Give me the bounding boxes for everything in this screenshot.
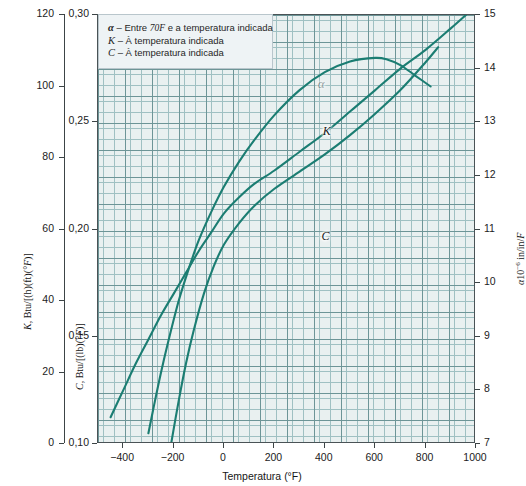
c-ticklabel-2: 0,20 bbox=[45, 222, 89, 234]
alpha-ticklabel-2: 13 bbox=[484, 114, 514, 126]
legend-dash-alpha: – bbox=[114, 22, 125, 33]
axis-title-k-tail: )] bbox=[22, 253, 33, 260]
axis-title-k-rest: , Btu/[(h)(ft)( bbox=[22, 270, 33, 323]
legend-text-k: À temperatura indicada bbox=[126, 35, 224, 46]
c-tick-1 bbox=[92, 121, 97, 122]
c-ticklabel-0: 0,30 bbox=[45, 7, 89, 19]
axis-title-x: Temperatura (°F) bbox=[0, 470, 524, 482]
axis-title-alpha: α10−6 in/in/F bbox=[514, 233, 526, 285]
legend-symbol-k: K bbox=[108, 35, 115, 46]
axis-title-alpha-base: 10 bbox=[515, 270, 526, 280]
alpha-tick-6 bbox=[475, 336, 480, 337]
curve-label-c: C bbox=[322, 229, 330, 244]
x-tick-5 bbox=[374, 443, 375, 448]
curve-label-k: K bbox=[323, 124, 331, 139]
legend-text2-alpha: e a temperatura indicada bbox=[165, 22, 273, 33]
x-tick-6 bbox=[425, 443, 426, 448]
alpha-ticklabel-4: 11 bbox=[484, 222, 514, 234]
curve-c bbox=[171, 47, 438, 443]
legend-dash-c: – bbox=[115, 47, 126, 58]
axis-title-c-tail: )] bbox=[74, 323, 85, 330]
axis-title-x-text: Temperatura (°F) bbox=[222, 470, 301, 482]
c-tick-0 bbox=[92, 14, 97, 15]
k-ticklabel-5: 20 bbox=[10, 365, 54, 377]
axis-title-alpha-exp: −6 bbox=[514, 262, 522, 269]
alpha-tick-1 bbox=[475, 68, 480, 69]
x-tick-0 bbox=[122, 443, 123, 448]
legend-box: α – Entre 70F e a temperatura indicada K… bbox=[98, 14, 273, 69]
x-ticklabel-7: 1000 bbox=[445, 451, 505, 463]
x-tick-4 bbox=[324, 443, 325, 448]
k-tick-5 bbox=[59, 372, 64, 373]
legend-symbol-c: C bbox=[108, 47, 115, 58]
k-ticklabel-1: 100 bbox=[10, 79, 54, 91]
axis-title-alpha-tail: in/in/ bbox=[515, 239, 526, 263]
alpha-tick-4 bbox=[475, 229, 480, 230]
axis-title-k-symbol: K bbox=[22, 323, 33, 330]
c-ticklabel-4: 0,10 bbox=[45, 436, 89, 448]
alpha-ticklabel-6: 9 bbox=[484, 329, 514, 341]
curve-k bbox=[148, 58, 430, 433]
alpha-tick-2 bbox=[475, 121, 480, 122]
alpha-ticklabel-5: 10 bbox=[484, 275, 514, 287]
alpha-ticklabel-1: 14 bbox=[484, 61, 514, 73]
c-tick-3 bbox=[92, 336, 97, 337]
k-ticklabel-2: 80 bbox=[10, 150, 54, 162]
alpha-tick-3 bbox=[475, 175, 480, 176]
c-tick-4 bbox=[92, 443, 97, 444]
legend-row-c: C – À temperatura indicada bbox=[108, 47, 263, 60]
x-tick-3 bbox=[273, 443, 274, 448]
legend-text-c: À temperatura indicada bbox=[126, 47, 224, 58]
alpha-ticklabel-0: 15 bbox=[484, 7, 514, 19]
alpha-ticklabel-8: 7 bbox=[484, 436, 514, 448]
x-tick-1 bbox=[173, 443, 174, 448]
legend-dash-k: – bbox=[115, 35, 126, 46]
c-tick-2 bbox=[92, 229, 97, 230]
alpha-tick-5 bbox=[475, 282, 480, 283]
plot-area bbox=[97, 14, 475, 443]
x-tick-2 bbox=[223, 443, 224, 448]
k-tick-4 bbox=[59, 300, 64, 301]
axis-title-c-deg: °F bbox=[74, 330, 85, 340]
axis-title-c-rest: , Btu/[(lb)( bbox=[74, 340, 85, 383]
k-tick-1 bbox=[59, 86, 64, 87]
axis-title-k: K, Btu/[(h)(ft)(°F)] bbox=[22, 253, 33, 330]
alpha-tick-8 bbox=[475, 443, 480, 444]
c-ticklabel-1: 0,25 bbox=[45, 114, 89, 126]
alpha-ticklabel-3: 12 bbox=[484, 168, 514, 180]
legend-italic-alpha: 70F bbox=[150, 23, 165, 33]
legend-text-alpha: Entre bbox=[124, 22, 149, 33]
k-tick-2 bbox=[59, 157, 64, 158]
axis-title-alpha-f: F bbox=[515, 233, 526, 239]
alpha-tick-7 bbox=[475, 389, 480, 390]
legend-row-k: K – À temperatura indicada bbox=[108, 35, 263, 48]
curve-label-alpha: α bbox=[318, 76, 325, 92]
axis-title-k-deg: °F bbox=[22, 260, 33, 270]
axis-title-c-symbol: C bbox=[74, 383, 85, 390]
alpha-ticklabel-7: 8 bbox=[484, 382, 514, 394]
axis-title-c: C, Btu/[(lb)(°F)] bbox=[74, 323, 85, 390]
axis-title-alpha-symbol: α bbox=[515, 280, 526, 285]
legend-row-alpha: α – Entre 70F e a temperatura indicada bbox=[108, 22, 263, 35]
alpha-tick-0 bbox=[475, 14, 480, 15]
curves-svg bbox=[98, 15, 475, 443]
